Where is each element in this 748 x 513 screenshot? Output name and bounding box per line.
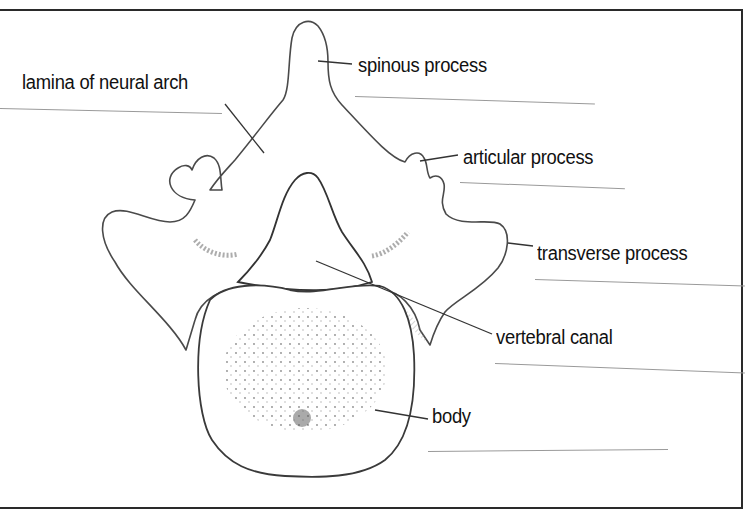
label-spinous-process: spinous process [358,54,487,77]
label-articular-process: articular process [463,146,593,169]
label-vertebral-canal: vertebral canal [496,326,613,349]
vertebral-body [198,285,414,477]
label-lamina-of-neural-arch: lamina of neural arch [22,71,188,94]
label-body: body [432,405,471,428]
label-transverse-process: transverse process [537,242,687,265]
